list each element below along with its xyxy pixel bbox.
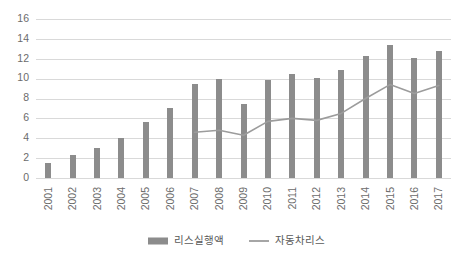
x-axis-tick-2016: 2016 [408,187,420,211]
x-axis-tick-2010: 2010 [261,187,273,211]
bar-2009 [241,104,247,178]
x-axis-tick-2002: 2002 [66,187,78,211]
chart-legend: 리스실행액자동차리스 [148,234,325,246]
legend-label-1: 자동차리스 [275,234,325,246]
x-axis-tick-2015: 2015 [384,187,396,211]
bar-2008 [216,79,222,178]
bar-2015 [387,45,393,178]
y-axis-tick-6: 6 [23,111,29,123]
y-axis-tick-2: 2 [23,151,29,163]
bar-2007 [192,84,198,178]
y-axis-tick-12: 12 [17,52,29,64]
x-axis-tick-2007: 2007 [188,187,200,211]
bar-2004 [118,138,124,178]
bar-2014 [363,56,369,178]
y-axis-tick-10: 10 [17,71,29,83]
bar-2017 [436,51,442,178]
bar-2012 [314,78,320,178]
x-axis-tick-2009: 2009 [237,187,249,211]
y-axis-tick-8: 8 [23,91,29,103]
y-axis-tick-4: 4 [23,131,29,143]
bar-2002 [70,155,76,178]
legend-item-0[interactable]: 리스실행액 [148,234,224,246]
x-axis-tick-2001: 2001 [42,187,54,211]
x-axis-tick-2013: 2013 [335,187,347,211]
y-axis-tick-labels: 0246810121416 [17,12,29,183]
y-axis-tick-14: 14 [17,32,29,44]
x-axis-tick-2004: 2004 [115,187,127,211]
bar-2013 [338,70,344,178]
x-axis-tick-2003: 2003 [91,187,103,211]
legend-label-0: 리스실행액 [174,234,224,246]
bar-2010 [265,80,271,178]
x-axis-tick-labels: 2001200220032004200520062007200820092010… [42,187,445,211]
y-axis-tick-0: 0 [23,171,29,183]
bar-2005 [143,122,149,178]
bar-2006 [167,108,173,178]
x-axis-tick-2012: 2012 [310,187,322,211]
chart-container: 0246810121416 20012002200320042005200620… [0,0,465,256]
bar-2003 [94,148,100,178]
x-axis-tick-2005: 2005 [139,187,151,211]
x-axis-tick-2008: 2008 [213,187,225,211]
x-axis-tick-2017: 2017 [432,187,444,211]
legend-swatch-bar [148,238,168,245]
x-axis-tick-2011: 2011 [286,187,298,210]
x-axis-tick-2006: 2006 [164,187,176,211]
x-axis-tick-2014: 2014 [359,187,371,211]
combo-chart: 0246810121416 20012002200320042005200620… [0,0,465,256]
legend-item-1[interactable]: 자동차리스 [249,234,325,246]
bar-2001 [45,163,51,178]
bar-2016 [411,58,417,178]
y-axis-tick-16: 16 [17,12,29,24]
bar-2011 [289,74,295,178]
